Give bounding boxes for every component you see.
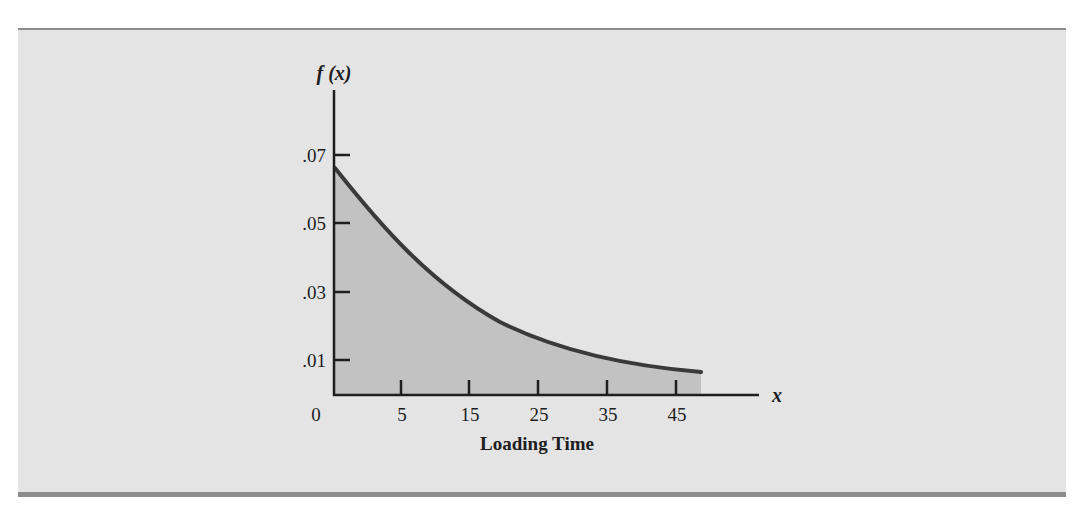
chart: .07 .05 .03 .01 0 5 15 25 35 45 f (x) x … [0,0,1081,522]
y-tick-label: .01 [302,350,326,371]
x-tick-label: 25 [530,404,549,425]
x-axis-variable-label: x [771,384,782,406]
x-tick-label: 45 [668,404,687,425]
x-tick-label: 15 [461,404,480,425]
y-tick-label: .07 [302,145,326,166]
y-tick-label: .05 [302,213,326,234]
shaded-area [335,168,701,395]
x-tick-label: 5 [397,404,407,425]
x-tick-label: 0 [311,404,321,425]
y-tick-label: .03 [302,282,326,303]
x-tick-label: 35 [599,404,618,425]
y-axis-label: f (x) [317,62,352,85]
x-axis-title: Loading Time [480,433,594,454]
